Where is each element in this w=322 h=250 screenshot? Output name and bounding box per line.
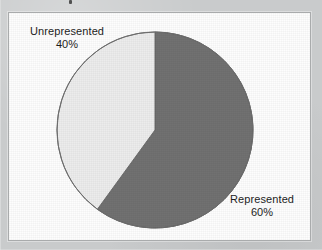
pie-label-unrepresented-name: Unrepresented xyxy=(30,25,104,37)
pie-label-represented-percent: 60% xyxy=(230,206,294,219)
scan-speck-artifact xyxy=(69,0,72,4)
pie-chart-screenshot: Unrepresented 40% Represented 60% xyxy=(0,0,322,250)
pie-label-unrepresented: Unrepresented 40% xyxy=(30,25,104,51)
chart-panel: Unrepresented 40% Represented 60% xyxy=(8,12,311,241)
pie-label-unrepresented-percent: 40% xyxy=(30,38,104,51)
pie-label-represented: Represented 60% xyxy=(230,193,294,219)
pie-label-represented-name: Represented xyxy=(230,193,294,205)
